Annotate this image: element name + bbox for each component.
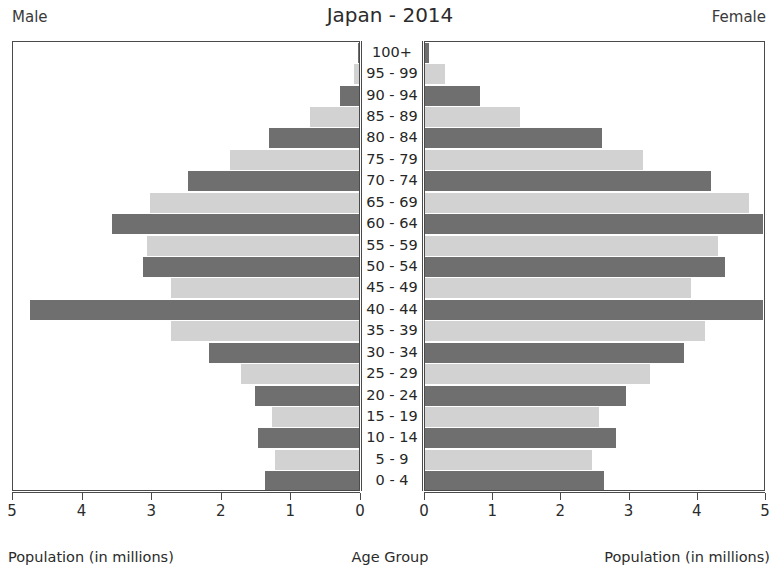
male-bar-row	[13, 150, 359, 170]
axis-tick	[360, 493, 361, 500]
male-bar-row	[13, 450, 359, 470]
axis-tick-label: 3	[609, 502, 649, 520]
female-bar	[425, 471, 604, 491]
axis-tick	[629, 493, 630, 500]
female-x-axis	[424, 492, 765, 493]
male-bar-row	[13, 321, 359, 341]
male-bar	[171, 278, 359, 298]
male-bar	[209, 343, 359, 363]
female-bar	[425, 43, 429, 63]
female-bar-row	[425, 321, 764, 341]
male-bar-row	[13, 278, 359, 298]
age-group-label: 15 - 19	[362, 406, 422, 426]
male-bar	[275, 450, 359, 470]
male-bar-row	[13, 257, 359, 277]
chart-title: Japan - 2014	[0, 3, 780, 27]
male-bar-row	[13, 300, 359, 320]
female-bar-rows	[425, 42, 764, 490]
age-group-label: 5 - 9	[362, 449, 422, 469]
axis-tick	[492, 493, 493, 500]
female-bar-row	[425, 86, 764, 106]
male-bar	[269, 128, 359, 148]
axis-tick	[424, 493, 425, 500]
female-header-label: Female	[712, 8, 766, 26]
female-bar-row	[425, 257, 764, 277]
female-bar-row	[425, 236, 764, 256]
male-x-axis	[12, 492, 360, 493]
male-bar-row	[13, 343, 359, 363]
age-group-label: 55 - 59	[362, 235, 422, 255]
female-bar-row	[425, 171, 764, 191]
male-bar-row	[13, 86, 359, 106]
male-bar-row	[13, 364, 359, 384]
axis-tick-label: 1	[472, 502, 512, 520]
female-bar	[425, 150, 643, 170]
male-bar-row	[13, 64, 359, 84]
female-bar-row	[425, 386, 764, 406]
age-group-label: 85 - 89	[362, 106, 422, 126]
female-bar	[425, 236, 718, 256]
axis-tick	[290, 493, 291, 500]
age-group-label: 80 - 84	[362, 127, 422, 147]
population-pyramid-figure: Male Japan - 2014 Female 100+95 - 9990 -…	[0, 0, 780, 579]
male-bar-row	[13, 428, 359, 448]
male-bar-rows	[13, 42, 359, 490]
female-bar-row	[425, 128, 764, 148]
male-bar-row	[13, 214, 359, 234]
male-bar-row	[13, 128, 359, 148]
female-bar-row	[425, 407, 764, 427]
age-group-label: 0 - 4	[362, 470, 422, 490]
age-group-label: 100+	[362, 42, 422, 62]
axis-tick-label: 5	[745, 502, 780, 520]
male-bar	[265, 471, 359, 491]
female-bar	[425, 407, 599, 427]
female-bar-row	[425, 64, 764, 84]
age-group-label: 10 - 14	[362, 427, 422, 447]
male-bar-row	[13, 193, 359, 213]
axis-tick-label: 0	[340, 502, 380, 520]
female-bar-row	[425, 150, 764, 170]
male-bar	[147, 236, 359, 256]
axis-tick	[151, 493, 152, 500]
female-bar	[425, 214, 763, 234]
male-bar	[171, 321, 359, 341]
female-bar-row	[425, 107, 764, 127]
age-group-label: 45 - 49	[362, 277, 422, 297]
male-plot-panel	[12, 41, 360, 491]
male-bar	[272, 407, 359, 427]
female-bar	[425, 171, 711, 191]
female-bar-row	[425, 214, 764, 234]
female-bar	[425, 64, 445, 84]
female-bar	[425, 257, 725, 277]
axis-tick-label: 4	[677, 502, 717, 520]
male-bar-row	[13, 471, 359, 491]
male-bar	[112, 214, 359, 234]
male-bar	[188, 171, 359, 191]
male-bar	[30, 300, 359, 320]
female-bar	[425, 386, 626, 406]
axis-tick	[765, 493, 766, 500]
age-group-label: 20 - 24	[362, 385, 422, 405]
axis-tick-label: 4	[62, 502, 102, 520]
age-group-label: 60 - 64	[362, 213, 422, 233]
female-bar	[425, 343, 684, 363]
age-group-label: 95 - 99	[362, 63, 422, 83]
axis-tick-label: 0	[404, 502, 444, 520]
axis-tick-label: 2	[540, 502, 580, 520]
axis-tick	[82, 493, 83, 500]
axis-tick	[221, 493, 222, 500]
female-bar	[425, 428, 616, 448]
male-bar-row	[13, 236, 359, 256]
male-bar-row	[13, 43, 359, 63]
female-bar-row	[425, 43, 764, 63]
male-bar-row	[13, 171, 359, 191]
axis-tick-label: 5	[0, 502, 32, 520]
female-bar-row	[425, 428, 764, 448]
age-group-label: 50 - 54	[362, 256, 422, 276]
male-bar	[358, 43, 359, 63]
axis-tick-label: 3	[131, 502, 171, 520]
age-group-label: 25 - 29	[362, 363, 422, 383]
axis-tick	[560, 493, 561, 500]
female-bar-row	[425, 343, 764, 363]
female-bar-row	[425, 471, 764, 491]
